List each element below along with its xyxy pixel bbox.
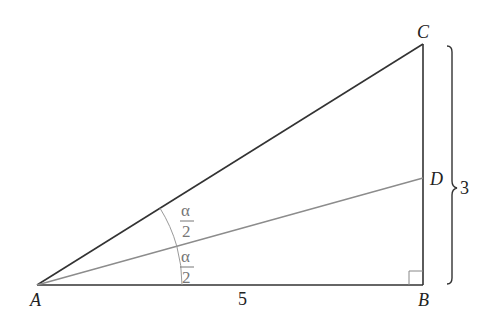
brace-bc xyxy=(447,46,457,284)
label-point-a: A xyxy=(29,290,42,310)
label-point-b: B xyxy=(418,290,429,310)
label-half-angle-top-num: α xyxy=(181,201,190,220)
label-height-length: 3 xyxy=(460,178,469,198)
bisector-ad xyxy=(37,178,423,285)
right-angle-marker xyxy=(409,271,423,285)
label-point-d: D xyxy=(429,169,443,189)
label-base-length: 5 xyxy=(238,289,247,309)
triangle-diagram: A B C D 5 3 α 2 α 2 xyxy=(0,0,487,327)
label-half-angle-top-den: 2 xyxy=(182,222,191,241)
label-half-angle-bottom-den: 2 xyxy=(182,268,191,287)
angle-arc-top xyxy=(160,208,177,246)
side-ac xyxy=(37,44,423,285)
label-point-c: C xyxy=(417,22,430,42)
label-half-angle-bottom-num: α xyxy=(181,247,190,266)
